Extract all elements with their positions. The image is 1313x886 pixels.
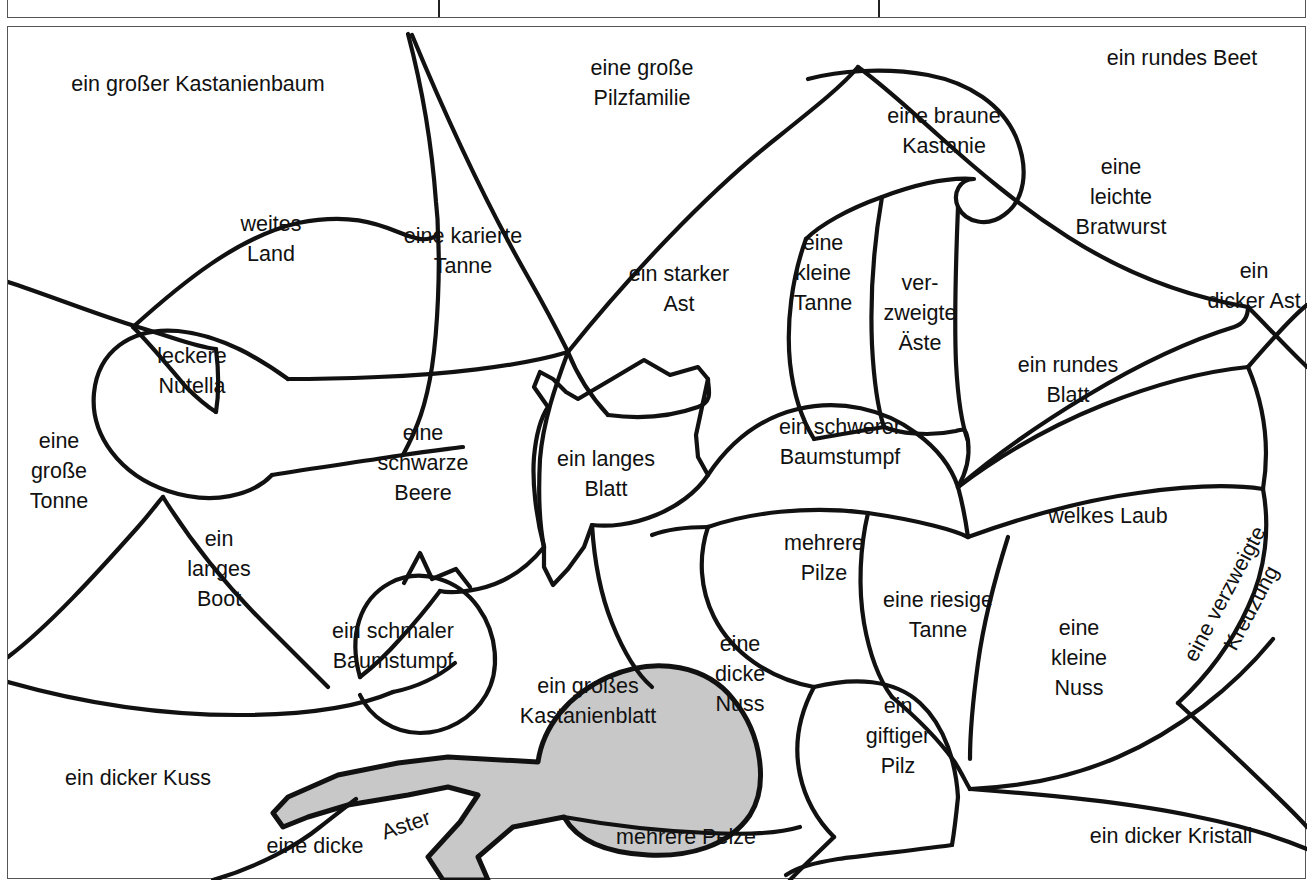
line-hub-to-kreuzung xyxy=(970,639,1273,789)
line-ast-diagonal xyxy=(568,67,858,352)
region-schmaler-baumstumpf[interactable] xyxy=(355,576,495,733)
region-leckere-nutella[interactable] xyxy=(94,331,288,498)
line-rundes-blatt-bottom xyxy=(968,486,1263,537)
line-beere-left-low xyxy=(360,591,440,677)
line-baumstumpf-top xyxy=(708,405,958,487)
line-bratwurst-bottom xyxy=(958,307,1248,487)
region-braune-kastanie[interactable] xyxy=(806,71,1024,239)
line-riesige-tanne-right xyxy=(970,537,1008,759)
line-nutella-to-beere xyxy=(272,447,463,475)
region-grosses-kastanienblatt[interactable] xyxy=(273,666,760,880)
line-baumstumpf-ear xyxy=(404,553,470,587)
line-pilz-bottom-left xyxy=(790,837,834,880)
line-tanne-to-node xyxy=(814,427,884,439)
line-pilze-top xyxy=(708,510,968,537)
line-weites-land-top xyxy=(133,219,438,327)
top-table-fragment xyxy=(7,0,1306,18)
line-boot-left xyxy=(8,497,163,657)
line-hub-right xyxy=(970,789,1307,849)
line-weites-land-right xyxy=(403,235,439,455)
line-welkes-laub-right xyxy=(1178,489,1266,703)
line-laub-to-kreuzung xyxy=(1248,367,1266,489)
region-langes-blatt[interactable] xyxy=(533,360,708,585)
line-pilze-left xyxy=(702,527,814,687)
line-starker-ast-bottom xyxy=(608,379,709,417)
screenshot-root: ein großer Kastanienbaum eine große Pilz… xyxy=(0,0,1313,886)
line-node-to-nutella-row xyxy=(288,352,568,379)
line-land-to-nutella-edge xyxy=(216,349,218,412)
line-baumstumpf-right xyxy=(958,487,968,537)
line-pilze-bottom xyxy=(797,687,834,837)
line-kleine-tanne-right xyxy=(871,197,884,427)
line-land-nutella-join xyxy=(8,282,216,349)
line-boot-bottom xyxy=(8,682,393,715)
line-verzweigte-aeste-right xyxy=(955,207,968,441)
table-column-divider-2 xyxy=(878,0,880,17)
table-column-divider-1 xyxy=(438,0,440,17)
line-riesige-tanne-left xyxy=(861,513,892,697)
diagram-frame: ein großer Kastanienbaum eine große Pilz… xyxy=(7,26,1306,879)
line-pilze-left-join xyxy=(652,527,708,535)
line-boot-upper xyxy=(163,497,328,687)
line-blatt-to-shaded xyxy=(592,525,652,687)
line-boot-bottom-right xyxy=(393,663,455,692)
line-tanne-node-join xyxy=(892,697,970,789)
line-giftiger-pilz-bottom xyxy=(952,797,958,845)
region-map-svg xyxy=(8,27,1307,880)
line-kreuzung-lower xyxy=(1178,703,1307,827)
